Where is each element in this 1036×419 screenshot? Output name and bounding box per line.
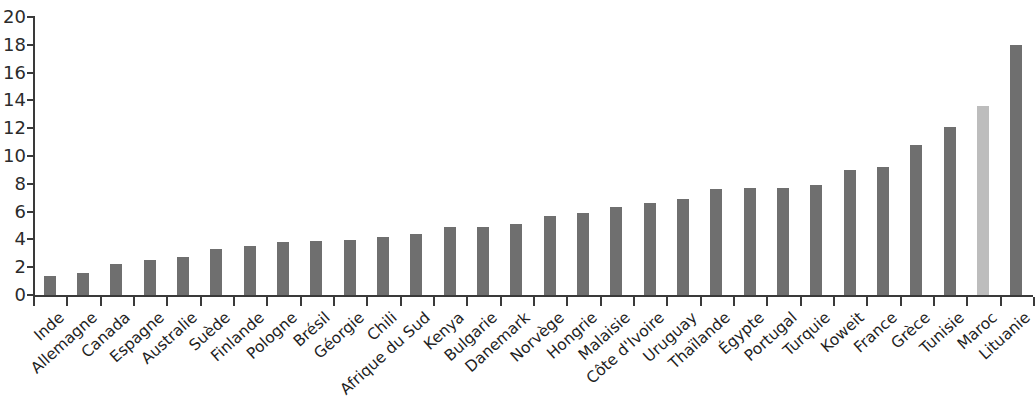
x-axis-tick (466, 297, 468, 306)
x-axis-tick (233, 297, 235, 306)
bar-chart: 02468101214161820 IndeAllemagneCanadaEsp… (0, 0, 1036, 419)
bar (1010, 45, 1022, 295)
bar (810, 185, 822, 295)
bar (44, 276, 56, 295)
x-axis-tick (133, 297, 135, 306)
y-axis-tick-label: 2 (0, 258, 26, 276)
x-axis-tick (666, 297, 668, 306)
x-axis-tick (400, 297, 402, 306)
bar (144, 260, 156, 295)
bar (344, 240, 356, 295)
bar (210, 249, 222, 295)
x-axis-tick (800, 297, 802, 306)
x-axis-tick (833, 297, 835, 306)
bar (310, 241, 322, 295)
x-axis-tick (433, 297, 435, 306)
x-axis-tick (366, 297, 368, 306)
bar (444, 227, 456, 295)
bar (477, 227, 489, 295)
bar (910, 145, 922, 295)
x-axis-tick (33, 297, 35, 306)
y-axis-tick-label: 20 (0, 8, 26, 26)
y-axis-tick-label: 14 (0, 91, 26, 109)
x-axis-tick (333, 297, 335, 306)
x-axis-tick (633, 297, 635, 306)
x-axis-tick (933, 297, 935, 306)
bar (744, 188, 756, 295)
bar (577, 213, 589, 295)
bar (110, 264, 122, 295)
bar (244, 246, 256, 295)
bar (544, 216, 556, 295)
x-axis-tick (1033, 297, 1035, 306)
bar (710, 189, 722, 295)
bar (844, 170, 856, 295)
bar (777, 188, 789, 295)
bar (510, 224, 522, 295)
y-axis-tick-label: 18 (0, 36, 26, 54)
y-axis-tick-label: 8 (0, 175, 26, 193)
y-axis-tick-label: 4 (0, 230, 26, 248)
bar (177, 257, 189, 295)
x-axis-tick (566, 297, 568, 306)
plot-area (33, 17, 1033, 295)
x-axis-tick (966, 297, 968, 306)
x-axis-tick (700, 297, 702, 306)
x-axis-tick (300, 297, 302, 306)
bar (877, 167, 889, 295)
x-axis-tick (100, 297, 102, 306)
y-axis-tick-label: 12 (0, 119, 26, 137)
bar (277, 242, 289, 295)
bar (610, 207, 622, 295)
x-axis-tick (766, 297, 768, 306)
bar (77, 273, 89, 295)
x-axis-tick (200, 297, 202, 306)
bar (677, 199, 689, 295)
x-axis-tick (600, 297, 602, 306)
bar (410, 234, 422, 295)
x-axis-tick (1000, 297, 1002, 306)
x-axis-tick (500, 297, 502, 306)
y-axis-tick-label: 10 (0, 147, 26, 165)
x-axis-tick (166, 297, 168, 306)
x-axis-tick (866, 297, 868, 306)
y-axis-tick-label: 0 (0, 286, 26, 304)
y-axis-tick-label: 16 (0, 64, 26, 82)
bar (377, 237, 389, 295)
bar (944, 127, 956, 295)
x-axis-tick (533, 297, 535, 306)
y-axis-tick-label: 6 (0, 203, 26, 221)
bar (644, 203, 656, 295)
x-axis-tick (66, 297, 68, 306)
bar (977, 106, 989, 295)
x-axis-tick (266, 297, 268, 306)
x-axis-tick (733, 297, 735, 306)
x-axis-tick (900, 297, 902, 306)
